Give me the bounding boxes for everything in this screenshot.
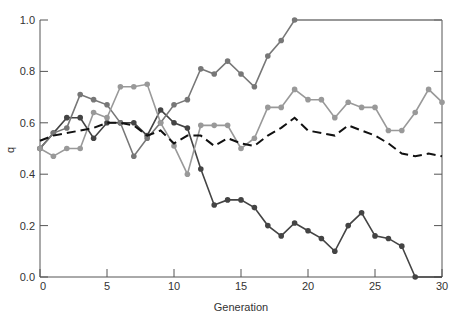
- data-point: [171, 120, 177, 126]
- data-point: [278, 233, 284, 239]
- y-tick-label: 0.6: [20, 117, 35, 129]
- data-point: [292, 220, 298, 226]
- y-tick-label: 0.2: [20, 220, 35, 232]
- data-point: [238, 146, 244, 152]
- data-point: [292, 17, 298, 23]
- y-axis-label: q: [4, 147, 16, 153]
- series-population-1-lost: [37, 107, 442, 280]
- y-tick-label: 1.0: [20, 14, 35, 26]
- data-point: [305, 228, 311, 234]
- data-point: [265, 53, 271, 59]
- x-tick-label: 20: [302, 280, 314, 292]
- data-point: [77, 146, 83, 152]
- y-tick-label: 0.4: [20, 168, 35, 180]
- data-point: [225, 58, 231, 64]
- x-tick-label: 25: [369, 280, 381, 292]
- data-point: [211, 123, 217, 129]
- data-point: [332, 249, 338, 255]
- data-point: [225, 197, 231, 203]
- x-tick-label: 0: [40, 280, 46, 292]
- data-point: [412, 110, 418, 116]
- data-point: [319, 97, 325, 103]
- x-axis-label: Generation: [214, 301, 268, 313]
- x-tick-label: 30: [436, 280, 448, 292]
- data-point: [77, 115, 83, 121]
- data-point: [104, 102, 110, 108]
- data-point: [131, 153, 137, 159]
- data-point: [91, 97, 97, 103]
- data-point: [185, 171, 191, 177]
- data-point: [265, 105, 271, 111]
- data-point: [91, 110, 97, 116]
- data-point: [238, 71, 244, 77]
- series-line: [40, 20, 442, 156]
- data-point: [144, 81, 150, 87]
- data-point: [211, 202, 217, 208]
- data-point: [345, 223, 351, 229]
- data-point: [225, 123, 231, 129]
- data-point: [198, 123, 204, 129]
- data-point: [359, 105, 365, 111]
- data-point: [386, 236, 392, 242]
- axes: 0.00.20.40.60.81.0051015202530: [20, 14, 448, 292]
- data-point: [426, 87, 432, 93]
- data-point: [386, 128, 392, 134]
- line-chart: 0.00.20.40.60.81.0051015202530 Generatio…: [0, 0, 454, 320]
- series-line: [40, 84, 442, 174]
- data-point: [158, 107, 164, 113]
- data-point: [37, 146, 43, 152]
- data-point: [359, 210, 365, 216]
- data-point: [104, 115, 110, 121]
- data-point: [198, 66, 204, 72]
- data-point: [158, 120, 164, 126]
- data-point: [292, 87, 298, 93]
- data-point: [198, 166, 204, 172]
- data-point: [439, 99, 445, 105]
- data-point: [305, 97, 311, 103]
- data-point: [171, 102, 177, 108]
- data-point: [265, 223, 271, 229]
- y-tick-label: 0.0: [20, 271, 35, 283]
- data-point: [319, 236, 325, 242]
- data-point: [131, 84, 137, 90]
- data-point: [51, 153, 57, 159]
- data-point: [345, 99, 351, 105]
- data-point: [372, 105, 378, 111]
- data-point: [252, 205, 258, 211]
- data-point: [372, 233, 378, 239]
- y-tick-label: 0.8: [20, 65, 35, 77]
- data-point: [399, 128, 405, 134]
- data-point: [64, 146, 70, 152]
- data-point: [278, 105, 284, 111]
- data-point: [77, 92, 83, 98]
- data-point: [412, 274, 418, 280]
- data-point: [332, 115, 338, 121]
- x-tick-label: 15: [235, 280, 247, 292]
- data-point: [131, 120, 137, 126]
- data-point: [238, 197, 244, 203]
- series-line: [40, 110, 442, 277]
- x-tick-label: 10: [168, 280, 180, 292]
- series-population-3: [37, 81, 445, 177]
- series-group: [37, 17, 445, 280]
- data-point: [211, 71, 217, 77]
- series-population-2-fixed: [37, 17, 442, 159]
- data-point: [185, 125, 191, 131]
- data-point: [118, 84, 124, 90]
- data-point: [252, 135, 258, 141]
- data-point: [64, 125, 70, 131]
- data-point: [64, 115, 70, 121]
- data-point: [399, 243, 405, 249]
- data-point: [185, 97, 191, 103]
- x-tick-label: 5: [104, 280, 110, 292]
- data-point: [278, 38, 284, 44]
- data-point: [91, 135, 97, 141]
- data-point: [252, 84, 258, 90]
